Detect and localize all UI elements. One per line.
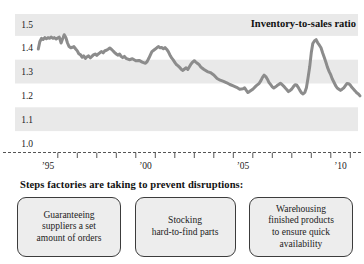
y-axis-label: 1.4 [21,43,33,53]
step-box-warehousing-products: Warehousing finished products to ensure … [249,197,353,257]
step-box-guaranteeing-orders: Guaranteeing suppliers a set amount of o… [17,197,121,257]
step-box-label: Guaranteeing suppliers a set amount of o… [37,210,102,245]
chart-title: Inventory-to-sales ratio [251,18,356,29]
y-axis-label: 1.5 [21,20,33,30]
y-axis-label: 1.2 [21,91,33,101]
step-box-label: Stocking hard-to-find parts [152,215,219,238]
footer-heading: Steps factories are taking to prevent di… [20,179,243,190]
inventory-to-sales-chart: 1.51.41.31.21.11.0’95’00’05’10Inventory-… [0,0,364,174]
y-axis-label: 1.3 [21,67,33,77]
y-axis-label: 1.1 [21,115,33,125]
step-box-label: Warehousing finished products to ensure … [268,204,334,250]
inventory-figure: 1.51.41.31.21.11.0’95’00’05’10Inventory-… [0,0,364,264]
x-axis-label: ’00 [139,161,152,171]
y-axis-label: 1.0 [21,139,33,149]
prevention-steps-row: Guaranteeing suppliers a set amount of o… [17,197,353,257]
x-axis-label: ’05 [237,161,250,171]
x-axis-label: ’10 [334,161,347,171]
x-axis-label: ’95 [42,161,55,171]
step-box-stocking-parts: Stocking hard-to-find parts [135,197,236,257]
plot-band [15,107,358,131]
